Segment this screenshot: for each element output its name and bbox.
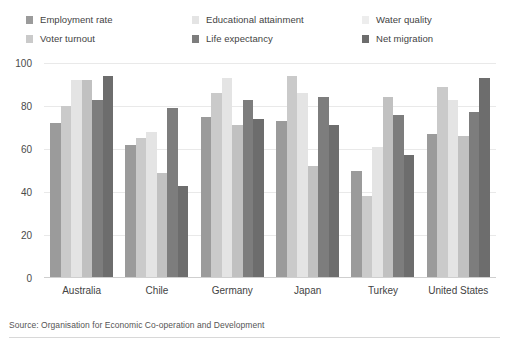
legend-item-label: Educational attainment [206, 15, 304, 25]
bar[interactable] [329, 125, 340, 278]
bar[interactable] [469, 112, 480, 278]
bar[interactable] [201, 117, 212, 278]
x-axis-label: Chile [119, 282, 194, 316]
bar[interactable] [448, 100, 459, 278]
bottom-divider [9, 337, 500, 338]
legend-item-label: Employment rate [40, 15, 113, 25]
bar[interactable] [427, 134, 438, 278]
y-axis-tick-label: 40 [21, 187, 32, 198]
plot-area [44, 63, 496, 278]
x-axis-label: Germany [195, 282, 270, 316]
bar[interactable] [287, 76, 298, 278]
bar[interactable] [167, 108, 178, 278]
legend-swatch-icon [192, 16, 199, 24]
bar[interactable] [50, 123, 61, 278]
source-note: Source: Organisation for Economic Co-ope… [9, 320, 264, 330]
bar[interactable] [103, 76, 114, 278]
bar[interactable] [297, 93, 308, 278]
legend-swatch-icon [362, 16, 369, 24]
bar[interactable] [479, 78, 490, 278]
bar[interactable] [146, 132, 157, 278]
legend-item-label: Life expectancy [206, 34, 273, 44]
legend-item[interactable]: Life expectancy [192, 34, 362, 44]
bar-groups [44, 63, 496, 278]
legend-item-label: Voter turnout [40, 34, 95, 44]
bar-group [345, 63, 420, 278]
legend-item[interactable]: Water quality [362, 15, 496, 25]
bar[interactable] [437, 87, 448, 278]
legend-item[interactable]: Employment rate [26, 15, 192, 25]
bar[interactable] [211, 93, 222, 278]
chart-legend: Employment rateVoter turnoutEducational … [26, 10, 496, 48]
y-axis-tick-label: 60 [21, 144, 32, 155]
legend-item[interactable]: Net migration [362, 34, 496, 44]
bar-group [44, 63, 119, 278]
legend-item-label: Water quality [376, 15, 432, 25]
bar-group [421, 63, 496, 278]
y-axis-tick-label: 80 [21, 101, 32, 112]
legend-swatch-icon [26, 35, 33, 43]
x-axis-label: Japan [270, 282, 345, 316]
bar[interactable] [92, 100, 103, 278]
bar[interactable] [61, 106, 72, 278]
bar[interactable] [362, 196, 373, 278]
bar[interactable] [178, 186, 189, 278]
bar[interactable] [351, 171, 362, 279]
bar[interactable] [393, 115, 404, 278]
legend-item[interactable]: Voter turnout [26, 34, 192, 44]
bar[interactable] [71, 80, 82, 278]
bar[interactable] [318, 97, 329, 278]
bar[interactable] [82, 80, 93, 278]
bar[interactable] [404, 155, 415, 278]
y-axis-ticks: 020406080100 [0, 63, 38, 278]
bar[interactable] [308, 166, 319, 278]
legend-swatch-icon [192, 35, 199, 43]
legend-swatch-icon [26, 16, 33, 24]
bar[interactable] [232, 125, 243, 278]
bar[interactable] [243, 100, 254, 278]
bar[interactable] [125, 145, 136, 278]
legend-item-label: Net migration [376, 34, 433, 44]
chart-figure: Employment rateVoter turnoutEducational … [0, 0, 509, 343]
bar-group [119, 63, 194, 278]
bar[interactable] [157, 173, 168, 278]
x-axis-label: Australia [44, 282, 119, 316]
legend-item[interactable]: Educational attainment [192, 15, 362, 25]
bar[interactable] [383, 97, 394, 278]
bar[interactable] [136, 138, 147, 278]
bar-group [270, 63, 345, 278]
bar[interactable] [276, 121, 287, 278]
x-axis-labels: AustraliaChileGermanyJapanTurkeyUnited S… [44, 282, 496, 316]
bar[interactable] [372, 147, 383, 278]
legend-swatch-icon [362, 35, 369, 43]
bar[interactable] [458, 136, 469, 278]
bar[interactable] [222, 78, 233, 278]
y-axis-tick-label: 0 [26, 273, 32, 284]
y-axis-tick-label: 20 [21, 230, 32, 241]
bar-group [195, 63, 270, 278]
x-axis-label: Turkey [345, 282, 420, 316]
x-axis-label: United States [421, 282, 496, 316]
bar[interactable] [253, 119, 264, 278]
y-axis-tick-label: 100 [15, 58, 32, 69]
x-axis-line [44, 277, 496, 278]
